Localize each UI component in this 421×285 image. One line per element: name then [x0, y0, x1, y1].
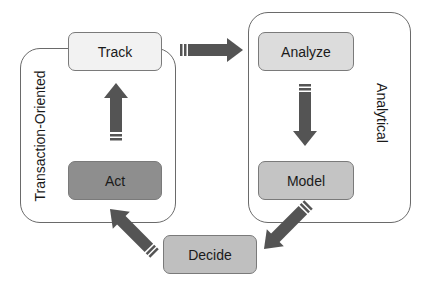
arrow-model-to-decide — [256, 196, 318, 258]
node-decide: Decide — [163, 235, 257, 274]
arrow-analyze-to-model — [293, 84, 317, 146]
node-model: Model — [258, 161, 354, 200]
node-act: Act — [68, 161, 162, 200]
node-analyze: Analyze — [258, 32, 354, 71]
arrow-decide-to-act — [102, 201, 164, 263]
node-track: Track — [68, 32, 162, 71]
arrow-act-to-track — [104, 83, 128, 141]
arrow-track-to-analyze — [180, 38, 243, 62]
